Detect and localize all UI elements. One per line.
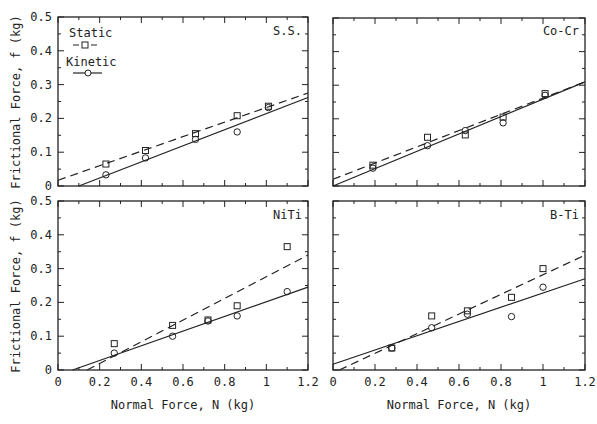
kinetic-fit-line bbox=[73, 287, 308, 370]
static-square-marker bbox=[111, 341, 117, 347]
kinetic-circle-marker bbox=[234, 313, 240, 319]
x-tick-label: 0.8 bbox=[490, 375, 512, 389]
x-tick-label: 0.4 bbox=[406, 375, 428, 389]
static-fit-line bbox=[58, 93, 308, 180]
kinetic-circle-marker bbox=[284, 288, 290, 294]
y-tick-label: 0.4 bbox=[30, 228, 52, 242]
legend: Static Kinetic bbox=[66, 26, 117, 76]
static-square-marker bbox=[103, 161, 109, 167]
x-tick-label: 0.2 bbox=[364, 375, 386, 389]
plot-frame bbox=[333, 18, 585, 186]
plot-frame bbox=[58, 201, 308, 370]
x-tick-label: 1.2 bbox=[574, 375, 596, 389]
static-square-marker bbox=[425, 134, 431, 140]
y-tick-label: 0.5 bbox=[30, 194, 52, 208]
x-tick-label: 0.4 bbox=[130, 375, 152, 389]
panel-niti: 00.10.20.30.40.500.20.40.60.811.2 bbox=[30, 194, 319, 389]
x-axis-title-left: Normal Force, N (kg) bbox=[111, 398, 256, 412]
x-tick-label: 1 bbox=[263, 375, 270, 389]
kinetic-circle-marker bbox=[429, 325, 435, 331]
y-tick-label: 0.4 bbox=[30, 44, 52, 58]
x-tick-label: 0 bbox=[54, 375, 61, 389]
static-square-marker bbox=[542, 91, 548, 97]
y-axis-title-bottom: Frictional Force, f (kg) bbox=[9, 199, 23, 372]
kinetic-circle-marker bbox=[508, 313, 514, 319]
legend-static-label: Static bbox=[69, 26, 112, 40]
kinetic-circle-marker bbox=[265, 104, 271, 110]
static-square-marker bbox=[234, 303, 240, 309]
legend-kinetic-label: Kinetic bbox=[66, 55, 117, 69]
y-tick-label: 0.2 bbox=[30, 111, 52, 125]
panel-label-ss: S.S. bbox=[273, 24, 302, 38]
kinetic-circle-marker bbox=[234, 129, 240, 135]
y-tick-label: 0.5 bbox=[30, 10, 52, 24]
plot-frame bbox=[333, 201, 585, 370]
static-square-marker bbox=[540, 266, 546, 272]
static-fit-line bbox=[339, 255, 585, 370]
x-axis-title-right: Normal Force, N (kg) bbox=[387, 398, 532, 412]
y-tick-label: 0.2 bbox=[30, 295, 52, 309]
y-tick-label: 0.3 bbox=[30, 78, 52, 92]
y-tick-label: 0.3 bbox=[30, 262, 52, 276]
static-square-marker bbox=[509, 294, 515, 300]
x-tick-label: 0 bbox=[329, 375, 336, 389]
x-tick-label: 1 bbox=[539, 375, 546, 389]
static-square-marker bbox=[429, 313, 435, 319]
y-axis-title-top: Frictional Force, f (kg) bbox=[9, 15, 23, 188]
y-tick-label: 0 bbox=[45, 179, 52, 193]
static-square-marker bbox=[284, 244, 290, 250]
y-tick-label: 0.1 bbox=[30, 145, 52, 159]
panel-bti: 00.20.40.60.811.2 bbox=[329, 201, 595, 389]
x-tick-label: 0.8 bbox=[214, 375, 236, 389]
x-tick-label: 0.6 bbox=[448, 375, 470, 389]
x-tick-label: 0.2 bbox=[89, 375, 111, 389]
panel-label-bti: B-Ti bbox=[550, 208, 579, 222]
y-tick-label: 0.1 bbox=[30, 329, 52, 343]
panel-cocr bbox=[333, 18, 585, 186]
x-tick-label: 1.2 bbox=[297, 375, 319, 389]
panel-label-cocr: Co-Cr bbox=[543, 24, 579, 38]
panel-label-niti: NiTi bbox=[273, 208, 302, 222]
plot-frame bbox=[58, 17, 308, 186]
kinetic-circle-marker bbox=[192, 136, 198, 142]
kinetic-fit-line bbox=[333, 279, 585, 365]
y-tick-label: 0 bbox=[45, 363, 52, 377]
x-tick-label: 0.6 bbox=[172, 375, 194, 389]
kinetic-circle-marker bbox=[540, 284, 546, 290]
legend-static-square-icon bbox=[82, 42, 88, 48]
friction-figure: 00.10.20.30.40.500.10.20.30.40.500.20.40… bbox=[0, 0, 597, 424]
legend-kinetic-circle-icon bbox=[85, 70, 91, 76]
